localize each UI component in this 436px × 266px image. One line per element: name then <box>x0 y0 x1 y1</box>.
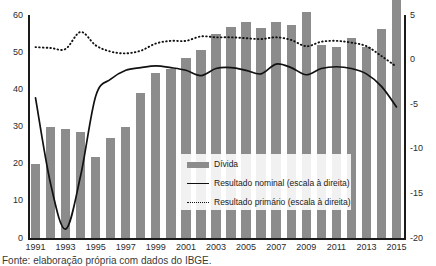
bar-swatch-icon <box>187 162 209 168</box>
line-resultado-primario <box>36 32 397 67</box>
dotted-line-swatch-icon <box>187 202 209 203</box>
legend-label-divida: Dívida <box>214 160 238 169</box>
legend-label-resultado-primario: Resultado primário (escala à direita) <box>214 198 351 207</box>
legend-item-resultado-primario: Resultado primário (escala à direita) <box>187 198 351 207</box>
solid-line-swatch-icon <box>187 183 209 184</box>
legend-item-divida: Dívida <box>187 160 238 169</box>
legend-label-resultado-nominal: Resultado nominal (escala à direita) <box>214 179 350 188</box>
figure-caption: Fonte: elaboração própria com dados do I… <box>2 255 434 266</box>
legend-item-resultado-nominal: Resultado nominal (escala à direita) <box>187 179 350 188</box>
chart-legend: Dívida Resultado nominal (escala à direi… <box>181 154 351 210</box>
line-series-layer <box>0 0 436 266</box>
chart-figure: 0102030405060 50-5-10-15-20 199119931995… <box>0 0 436 266</box>
